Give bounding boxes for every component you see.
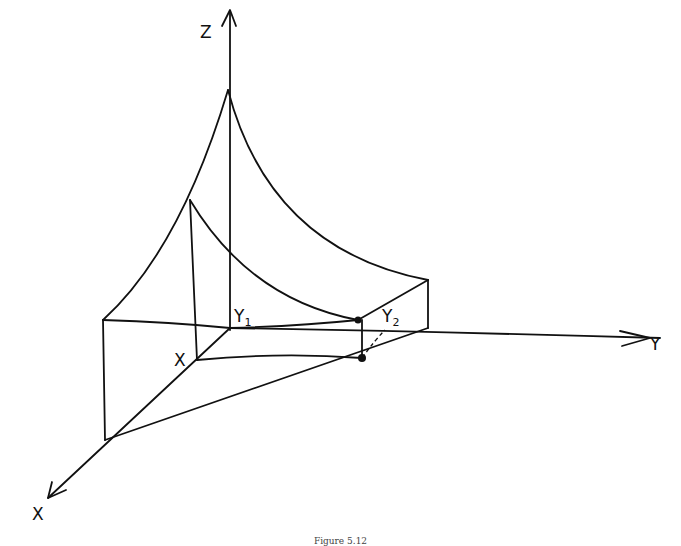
x-point-label: X	[174, 350, 186, 370]
base-region	[103, 280, 428, 440]
y2-label: Y2	[381, 306, 399, 329]
y-arrowhead-icon	[620, 331, 650, 346]
y-axis-label: Y	[649, 334, 661, 354]
x-axis	[48, 328, 230, 498]
x-point-vertical	[190, 200, 197, 360]
z-arrowhead-icon	[222, 10, 236, 26]
y-axis	[230, 328, 660, 346]
z-axis	[222, 10, 236, 330]
base-point-dot	[358, 354, 366, 362]
surface-point-dot	[355, 317, 362, 324]
x-axis-label: X	[32, 504, 44, 524]
y1-label: Y1	[233, 306, 251, 329]
z-axis-label: Z	[200, 22, 212, 42]
surface	[103, 90, 428, 328]
figure-caption: Figure 5.12	[0, 536, 681, 546]
